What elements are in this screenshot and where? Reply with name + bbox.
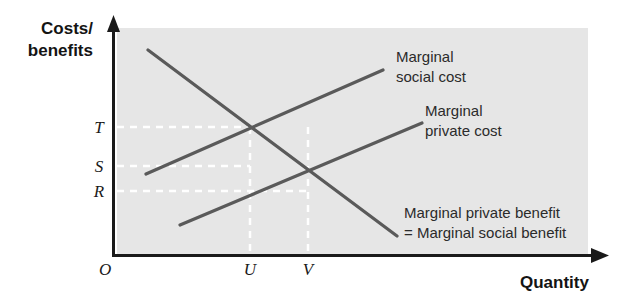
y-tick-label-t: T bbox=[94, 118, 105, 137]
diagram-canvas: Costs/ benefits Quantity O TSRUV Margina… bbox=[0, 0, 625, 299]
mpc-label-line2: private cost bbox=[425, 122, 503, 139]
x-axis-arrowhead bbox=[591, 248, 609, 263]
mpb-label-line2: = Marginal social benefit bbox=[404, 224, 567, 241]
x-tick-label-u: U bbox=[244, 260, 258, 279]
origin-label: O bbox=[99, 260, 111, 279]
y-axis-title-line2: benefits bbox=[28, 41, 93, 60]
y-axis-arrowhead bbox=[107, 15, 120, 32]
y-tick-label-r: R bbox=[93, 182, 105, 201]
x-tick-label-v: V bbox=[303, 260, 316, 279]
y-tick-label-s: S bbox=[95, 157, 104, 176]
mpb-label-line1: Marginal private benefit bbox=[404, 204, 561, 221]
y-axis-title-line1: Costs/ bbox=[41, 19, 93, 38]
msc-label-line1: Marginal bbox=[396, 48, 454, 65]
msc-label-line2: social cost bbox=[396, 68, 467, 85]
x-axis-title: Quantity bbox=[520, 273, 589, 292]
mpc-label-line1: Marginal bbox=[425, 102, 483, 119]
externality-diagram: Costs/ benefits Quantity O TSRUV Margina… bbox=[0, 0, 625, 299]
